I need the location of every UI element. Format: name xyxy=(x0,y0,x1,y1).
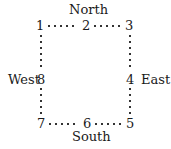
position-5: 5 xyxy=(126,117,134,130)
south-label: South xyxy=(72,130,111,143)
position-6: 6 xyxy=(83,117,91,130)
top-right-dotted-edge xyxy=(92,25,123,27)
east-label: East xyxy=(141,73,170,86)
left-bottom-dotted-edge xyxy=(40,86,42,116)
right-top-dotted-edge xyxy=(129,33,131,71)
bottom-right-dotted-edge xyxy=(93,123,124,125)
west-label: West xyxy=(8,73,40,86)
position-8: 8 xyxy=(37,73,45,86)
position-1: 1 xyxy=(36,19,44,32)
right-bottom-dotted-edge xyxy=(129,86,131,116)
north-label: North xyxy=(69,3,108,16)
bottom-left-dotted-edge xyxy=(47,123,79,125)
top-left-dotted-edge xyxy=(46,25,78,27)
position-3: 3 xyxy=(125,19,133,32)
left-top-dotted-edge xyxy=(40,33,42,71)
position-7: 7 xyxy=(37,117,45,130)
position-4: 4 xyxy=(126,73,134,86)
position-2: 2 xyxy=(82,19,90,32)
